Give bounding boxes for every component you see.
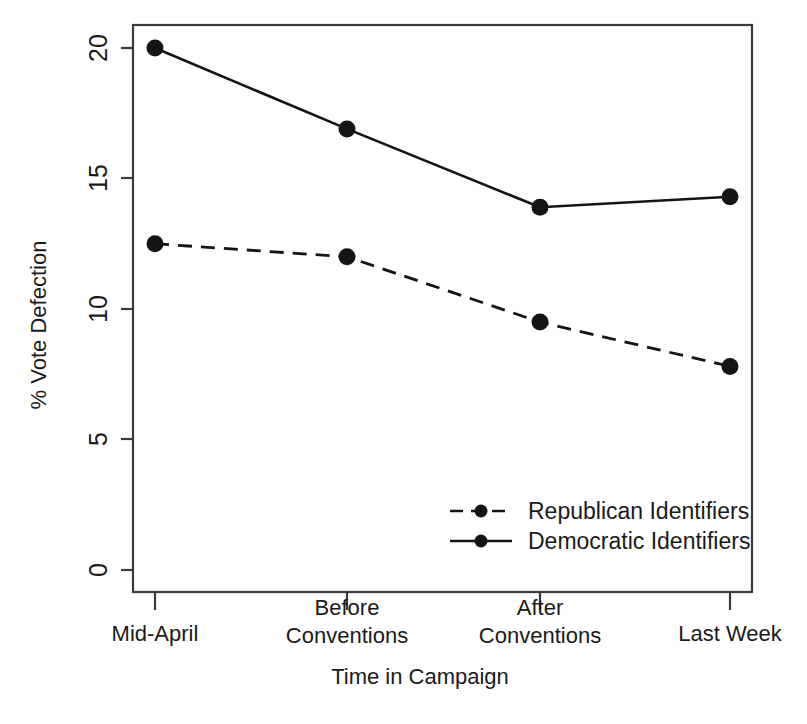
data-point bbox=[147, 235, 164, 252]
series-markers-republican bbox=[147, 235, 739, 375]
line-chart: 0 5 10 15 20 % Vote Defection Mid-April … bbox=[0, 0, 807, 724]
x-tick-label-last-week: Last Week bbox=[678, 621, 783, 646]
x-axis-title: Time in Campaign bbox=[331, 664, 509, 689]
data-point bbox=[147, 40, 164, 57]
series-line-democratic bbox=[155, 48, 730, 207]
data-point bbox=[722, 188, 739, 205]
chart-legend: Republican Identifiers Democratic Identi… bbox=[450, 498, 750, 554]
x-tick-label-after-line2: Conventions bbox=[479, 623, 601, 648]
data-point bbox=[722, 358, 739, 375]
series-line-republican bbox=[155, 244, 730, 367]
y-tick-label-20: 20 bbox=[84, 34, 112, 62]
legend-label-republican: Republican Identifiers bbox=[528, 498, 749, 524]
y-tick-label-15: 15 bbox=[84, 164, 112, 192]
x-tick-label-before-line1: Before bbox=[315, 595, 380, 620]
data-point bbox=[339, 248, 356, 265]
y-tick-label-0: 0 bbox=[84, 563, 112, 577]
y-tick-label-10: 10 bbox=[84, 295, 112, 323]
chart-figure: 0 5 10 15 20 % Vote Defection Mid-April … bbox=[0, 0, 807, 724]
x-tick-label-after-line1: After bbox=[517, 595, 563, 620]
legend-marker-democratic bbox=[475, 535, 488, 548]
series-markers-democratic bbox=[147, 40, 739, 216]
y-tick-label-5: 5 bbox=[84, 432, 112, 446]
x-tick-label-before-line2: Conventions bbox=[286, 623, 408, 648]
data-point bbox=[532, 314, 549, 331]
data-point bbox=[339, 120, 356, 137]
x-tick-label-mid-april: Mid-April bbox=[112, 621, 199, 646]
legend-marker-republican bbox=[475, 505, 488, 518]
legend-label-democratic: Democratic Identifiers bbox=[528, 528, 750, 554]
y-axis-title: % Vote Defection bbox=[26, 241, 51, 410]
data-point bbox=[532, 199, 549, 216]
